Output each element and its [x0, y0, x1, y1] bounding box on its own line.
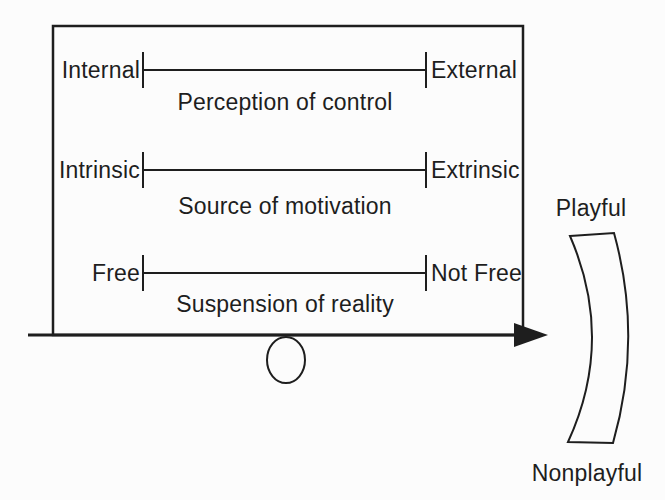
- playfulness-curved-band: [568, 233, 628, 443]
- scale2-left-label: Intrinsic: [18, 155, 140, 185]
- playful-label: Playful: [531, 193, 651, 223]
- scale1-left-label: Internal: [18, 55, 140, 85]
- scale1-title: Perception of control: [144, 87, 426, 117]
- scale-perception-of-control: [143, 52, 426, 88]
- arrowhead-icon: [514, 323, 548, 347]
- fulcrum-circle: [267, 337, 305, 383]
- playfulness-balance-diagram: Internal External Perception of control …: [0, 0, 665, 500]
- continuum-arrow: [28, 323, 548, 347]
- nonplayful-label: Nonplayful: [521, 458, 653, 488]
- scale2-right-label: Extrinsic: [431, 155, 571, 185]
- scale2-title: Source of motivation: [144, 191, 426, 221]
- scale3-left-label: Free: [18, 258, 140, 288]
- scale-source-of-motivation: [143, 152, 426, 188]
- scale1-right-label: External: [431, 55, 571, 85]
- scale3-title: Suspension of reality: [144, 289, 426, 319]
- scale-suspension-of-reality: [143, 255, 426, 291]
- scale3-right-label: Not Free: [431, 258, 571, 288]
